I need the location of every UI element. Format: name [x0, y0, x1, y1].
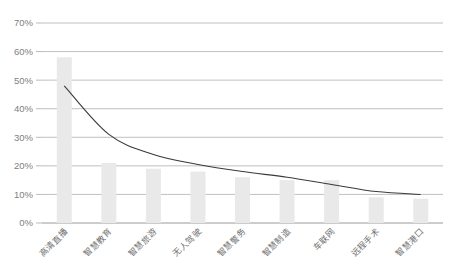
y-axis-tick-label: 30%: [14, 132, 34, 143]
pareto-chart: 0%10%20%30%40%50%60%70% 高清直播智慧教育智慧旅游无人驾驶…: [0, 0, 452, 274]
y-axis-tick-label: 0%: [19, 217, 33, 228]
bar: [146, 169, 161, 223]
chart-container: 0%10%20%30%40%50%60%70% 高清直播智慧教育智慧旅游无人驾驶…: [0, 0, 452, 274]
bar: [190, 172, 205, 223]
bar: [413, 199, 428, 223]
y-axis-tick-labels: 0%10%20%30%40%50%60%70%: [14, 17, 34, 228]
x-axis-category-label: 智慧旅游: [126, 226, 159, 259]
y-axis-tick-label: 50%: [14, 75, 34, 86]
bar: [280, 180, 295, 223]
bar: [235, 177, 250, 223]
y-axis-tick-label: 20%: [14, 160, 34, 171]
x-axis-category-label: 智慧警务: [215, 226, 248, 259]
x-axis-category-label: 车联网: [311, 226, 337, 252]
y-axis-tick-label: 10%: [14, 189, 34, 200]
bar: [101, 163, 116, 223]
bar: [57, 57, 72, 223]
y-axis-tick-label: 40%: [14, 103, 34, 114]
bars-group: [57, 57, 428, 223]
category-labels-group: 高清直播智慧教育智慧旅游无人驾驶智慧警务智慧制造车联网远程手术智慧港口: [37, 226, 426, 259]
bar: [369, 197, 384, 223]
x-axis-category-label: 高清直播: [37, 226, 70, 259]
x-axis-category-label: 智慧制造: [260, 226, 293, 259]
y-axis-tick-label: 60%: [14, 46, 34, 57]
x-axis-category-label: 智慧港口: [394, 226, 427, 259]
y-axis-tick-label: 70%: [14, 17, 34, 28]
bar: [324, 180, 339, 223]
x-axis-category-label: 远程手术: [349, 226, 382, 259]
x-axis-category-label: 智慧教育: [82, 226, 115, 259]
x-axis-category-label: 无人驾驶: [171, 226, 204, 259]
